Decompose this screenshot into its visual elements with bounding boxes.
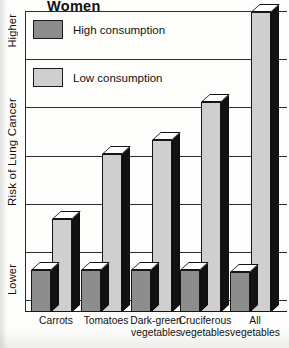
bar-side-face [250,265,258,312]
bar-group [81,11,131,312]
bar-side-face [200,263,208,312]
y-axis-top-label: Higher [6,14,18,48]
legend-item-high-consumption: High consumption [33,20,165,39]
bar-chart: Women Higher Risk of Lung Cancer Lower C… [0,0,289,348]
high-consumption-swatch [33,20,63,39]
bar-high-consumption [180,270,200,312]
bar-high-consumption [81,270,101,312]
bar-side-face [221,95,229,312]
legend-item-low-consumption: Low consumption [33,68,163,87]
y-axis-bottom-label: Lower [6,264,18,295]
bar-group [180,11,230,312]
category-label-4: All vegetables [221,315,289,338]
bar-side-face [72,212,80,312]
bar-group [31,11,81,312]
bar-side-face [122,147,130,312]
bar-high-consumption [31,270,51,312]
y-axis-line [25,11,26,312]
bar-side-face [172,133,180,312]
y-axis-title: Risk of Lung Cancer [6,98,18,206]
bar-front-face [31,270,51,312]
bar-high-consumption [131,270,151,312]
legend-label-high: High consumption [73,24,165,36]
bar-front-face [131,270,151,312]
bar-side-face [51,263,59,312]
bar-high-consumption [230,272,250,312]
bar-group [131,11,181,312]
bar-front-face [81,270,101,312]
bar-side-face [271,5,279,312]
legend-label-low: Low consumption [73,72,163,84]
plot-area [25,11,287,312]
bar-front-face [230,272,250,312]
bar-group [230,11,280,312]
bar-side-face [151,263,159,312]
bar-front-face [180,270,200,312]
low-consumption-swatch [33,68,63,87]
bar-side-face [101,263,109,312]
